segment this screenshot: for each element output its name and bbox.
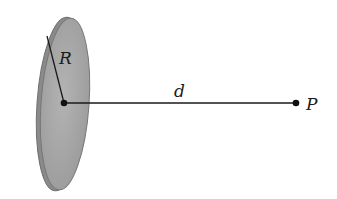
- point-label: P: [305, 94, 318, 114]
- disk-diagram: R d P: [0, 0, 337, 199]
- distance-label: d: [174, 81, 185, 101]
- point-p-dot: [293, 100, 300, 107]
- disk-center-dot: [61, 100, 68, 107]
- radius-label: R: [58, 48, 72, 68]
